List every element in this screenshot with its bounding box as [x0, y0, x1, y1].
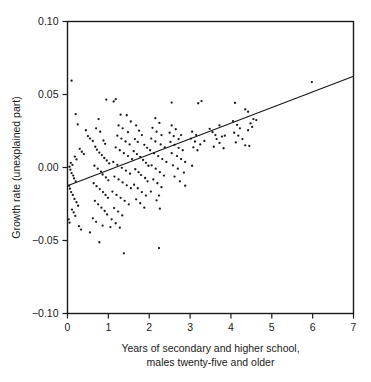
data-point [75, 201, 77, 203]
data-point [106, 159, 108, 161]
data-point [137, 171, 139, 173]
data-point [92, 140, 94, 142]
data-point [175, 128, 177, 130]
data-point [110, 218, 112, 220]
data-point [126, 184, 128, 186]
data-point [97, 203, 99, 205]
data-point [158, 122, 160, 124]
data-point [255, 119, 257, 121]
data-point [160, 143, 162, 145]
data-point [151, 127, 153, 129]
data-point [100, 207, 102, 209]
data-point [104, 210, 106, 212]
data-point [98, 151, 100, 153]
data-point [200, 100, 202, 102]
data-point [69, 188, 71, 190]
fit-line [68, 76, 354, 186]
data-point [127, 131, 129, 133]
data-point [191, 131, 193, 133]
data-point [177, 147, 179, 149]
data-point [244, 108, 246, 110]
data-point [97, 168, 99, 170]
regression-line [68, 76, 354, 186]
data-point [126, 114, 128, 116]
data-point [104, 143, 106, 145]
data-point [103, 157, 105, 159]
data-point [107, 197, 109, 199]
data-point [131, 158, 133, 160]
data-point [239, 127, 241, 129]
data-point [98, 241, 100, 243]
y-tick-label: −0.10 [32, 307, 59, 319]
data-point [171, 101, 173, 103]
data-point [73, 198, 75, 200]
data-point [182, 149, 184, 151]
data-point [115, 222, 117, 224]
scatter-plot-figure: 01234567−0.10−0.050.000.050.10 Years of … [0, 0, 371, 382]
data-point [130, 120, 132, 122]
data-point [119, 197, 121, 199]
data-point [94, 146, 96, 148]
x-tick-label: 0 [65, 321, 71, 333]
data-point [196, 149, 198, 151]
data-point [150, 190, 152, 192]
data-point [134, 168, 136, 170]
data-point [94, 200, 96, 202]
data-point [211, 131, 213, 133]
data-point [75, 158, 77, 160]
y-tick-label: 0.10 [38, 15, 59, 27]
data-point [89, 137, 91, 139]
data-point [72, 174, 74, 176]
data-point [78, 225, 80, 227]
data-point [214, 134, 216, 136]
x-axis-title-line: Years of secondary and higher school, [121, 342, 299, 354]
x-tick-label: 1 [105, 321, 111, 333]
data-point [151, 164, 153, 166]
data-point [87, 135, 89, 137]
data-point [123, 252, 125, 254]
data-point [146, 147, 148, 149]
data-point [80, 228, 82, 230]
data-point [115, 146, 117, 148]
data-point [234, 102, 236, 104]
data-point [133, 150, 135, 152]
plot-border [68, 22, 354, 314]
tick-labels: 01234567−0.10−0.050.000.050.10 [32, 15, 357, 332]
data-point [203, 140, 205, 142]
data-point [244, 144, 246, 146]
data-point [163, 174, 165, 176]
data-point [77, 123, 79, 125]
data-point [222, 147, 224, 149]
data-point [113, 175, 115, 177]
data-point [213, 146, 215, 148]
data-point [155, 131, 157, 133]
data-point [102, 139, 104, 141]
data-point [237, 135, 239, 137]
data-point [122, 181, 124, 183]
data-point [75, 113, 77, 115]
data-point [105, 98, 107, 100]
data-point [169, 141, 171, 143]
data-point [136, 153, 138, 155]
data-point [112, 161, 114, 163]
data-point [209, 128, 211, 130]
data-point [215, 138, 217, 140]
axis-ticks [63, 22, 354, 319]
data-point [120, 137, 122, 139]
data-point [154, 117, 156, 119]
data-point [119, 227, 121, 229]
data-point [89, 231, 91, 233]
data-point [173, 175, 175, 177]
plot-frame [68, 22, 354, 314]
data-point [70, 162, 72, 164]
data-point [93, 165, 95, 167]
data-point [119, 114, 121, 116]
data-point [139, 202, 141, 204]
data-point [156, 182, 158, 184]
x-tick-label: 2 [146, 321, 152, 333]
data-point [102, 191, 104, 193]
data-point [125, 170, 127, 172]
data-point [101, 224, 103, 226]
data-point [73, 177, 75, 179]
data-point [92, 217, 94, 219]
